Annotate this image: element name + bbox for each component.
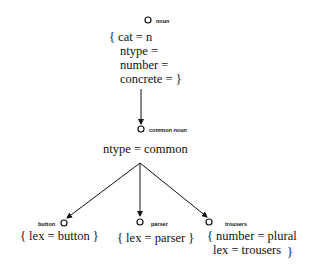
button-label: button — [38, 221, 55, 227]
parser-node-icon — [137, 219, 143, 225]
trousers-feature-line-1: { number = plural — [207, 229, 297, 243]
trousers-feature-close: } — [287, 245, 293, 259]
common-noun-label: common noun — [149, 127, 187, 133]
edge-to-button — [67, 163, 140, 218]
root-feature-line-4: concrete = } — [120, 72, 182, 86]
root-feature-line-2: ntype = — [120, 44, 158, 58]
parser-label: parser — [151, 221, 168, 227]
root-node-icon — [145, 17, 151, 23]
common-noun-feature: ntype = common — [103, 142, 188, 156]
common-noun-node-icon — [138, 126, 144, 132]
root-feature-line-1: { cat = n — [109, 30, 152, 44]
button-feature: { lex = button } — [20, 229, 99, 243]
parser-feature: { lex = parser } — [117, 231, 194, 245]
edge-to-trousers — [140, 163, 207, 217]
root-node-label: noun — [156, 18, 169, 24]
button-node-icon — [61, 220, 67, 226]
trousers-feature-line-2: lex = trousers — [213, 243, 281, 257]
root-feature-line-3: number = — [120, 58, 168, 72]
trousers-node-icon — [206, 219, 212, 225]
trousers-label: trousers — [225, 221, 247, 227]
